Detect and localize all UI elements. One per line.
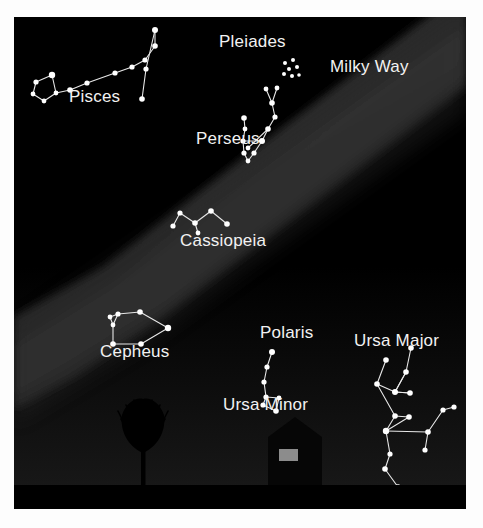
polaris-label: Polaris (260, 323, 313, 342)
star-point (407, 390, 413, 396)
star-point (152, 43, 158, 49)
star-point (269, 100, 275, 106)
ursa-major-label: Ursa Major (354, 331, 439, 350)
star-point (208, 208, 214, 214)
cluster-star-point (295, 65, 299, 69)
star-point (108, 315, 113, 320)
star-point (392, 389, 398, 395)
star-point (137, 309, 143, 315)
cluster-star-point (291, 58, 295, 62)
star-point (261, 379, 266, 384)
star-point (440, 407, 445, 412)
star-point (251, 150, 256, 155)
star-point (382, 466, 388, 472)
star-point (272, 114, 277, 119)
star-point (406, 414, 412, 420)
pisces-label: Pisces (69, 87, 120, 106)
star-point (49, 72, 55, 78)
star-point (425, 429, 431, 435)
star-point (129, 64, 134, 69)
pleiades-label: Pleiades (219, 32, 286, 51)
star-point (224, 221, 230, 227)
star-point (142, 57, 147, 62)
star-point (31, 92, 36, 97)
star-point (192, 220, 198, 226)
perseus-label: Perseus (196, 129, 260, 148)
star-point (392, 413, 398, 419)
star-point (177, 210, 182, 215)
star-point (54, 91, 59, 96)
cluster-star-point (290, 74, 294, 78)
star-point (165, 325, 171, 331)
star-point (374, 381, 380, 387)
star-point (264, 364, 269, 369)
star-point (383, 357, 389, 363)
sky-chart-canvas: Milky WayPleiadesPiscesPerseusCassiopeia… (14, 17, 466, 509)
cluster-star-point (287, 67, 291, 71)
star-point (143, 66, 148, 71)
star-point (241, 150, 246, 155)
cassiopeia-label: Cassiopeia (180, 231, 266, 250)
star-point (170, 223, 175, 228)
star-point (264, 87, 269, 92)
ursa-minor-label: Ursa Minor (223, 395, 308, 414)
star-point (403, 369, 409, 375)
star-point (115, 311, 120, 316)
star-point (387, 451, 392, 456)
cluster-star-point (297, 73, 301, 77)
star-chart-page: Milky WayPleiadesPiscesPerseusCassiopeia… (0, 0, 483, 528)
sky-chart-figure: Milky WayPleiadesPiscesPerseusCassiopeia… (14, 17, 466, 509)
milky-way-band: Milky Way (330, 57, 409, 76)
star-point (451, 404, 456, 409)
star-point (246, 159, 251, 164)
star-point (275, 86, 280, 91)
star-point (383, 428, 389, 434)
star-point (33, 79, 38, 84)
cluster-star-point (282, 72, 286, 76)
star-point (265, 126, 271, 132)
star-point (111, 323, 116, 328)
star-point (152, 27, 158, 33)
house-window (279, 449, 298, 461)
star-point (42, 99, 47, 104)
star-point (139, 96, 145, 102)
star-point (241, 115, 247, 121)
ground-silhouette (14, 485, 466, 509)
cluster-star-point (283, 61, 287, 65)
star-point (259, 138, 265, 144)
star-point (269, 349, 275, 355)
star-point (112, 70, 117, 75)
cepheus-label: Cepheus (100, 342, 169, 361)
star-point (84, 80, 89, 85)
star-point (422, 447, 427, 452)
